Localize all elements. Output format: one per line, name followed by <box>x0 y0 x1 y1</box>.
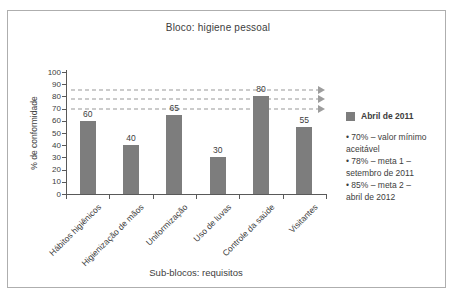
x-axis-title: Sub-blocos: requisitos <box>66 267 326 278</box>
legend-series-label: Abril de 2011 <box>361 111 413 121</box>
y-tick-label: 0 <box>35 190 61 199</box>
legend-note: • 70% – valor mínimo aceitável <box>346 132 428 155</box>
y-tick-mark <box>62 121 66 122</box>
legend-swatch <box>346 112 355 121</box>
bar-2 <box>123 145 139 194</box>
reference-line <box>71 89 318 91</box>
y-tick-label: 10 <box>35 177 61 186</box>
x-tick-mark <box>109 195 110 199</box>
x-tick-mark <box>153 195 154 199</box>
legend-series-row: Abril de 2011 <box>346 111 441 121</box>
reference-line <box>71 98 318 100</box>
y-tick-mark <box>62 109 66 110</box>
y-tick-mark <box>62 157 66 158</box>
x-category-label: Uniformização <box>144 202 189 247</box>
x-tick-mark <box>196 195 197 199</box>
reference-line-arrow-icon <box>318 95 325 103</box>
y-axis-line <box>66 70 67 195</box>
reference-line-arrow-icon <box>318 86 325 94</box>
x-tick-mark <box>283 195 284 199</box>
x-tick-mark <box>66 195 67 199</box>
y-tick-mark <box>62 170 66 171</box>
legend-note: • 85% – meta 2 – abril de 2012 <box>346 180 428 203</box>
y-tick-mark <box>62 145 66 146</box>
bar-5 <box>253 96 269 194</box>
bar-value-label: 80 <box>244 84 278 94</box>
x-category-label: Visitantes <box>286 202 319 235</box>
y-axis-title: % de conformidade <box>29 96 39 169</box>
bar-3 <box>166 115 182 194</box>
bar-value-label: 40 <box>114 133 148 143</box>
x-tick-mark <box>239 195 240 199</box>
y-tick-label: 90 <box>35 80 61 89</box>
y-tick-mark <box>62 96 66 97</box>
chart-legend: Abril de 2011 • 70% – valor mínimo aceit… <box>346 111 441 204</box>
y-tick-label: 100 <box>35 68 61 77</box>
y-tick-mark <box>62 133 66 134</box>
bar-6 <box>296 127 312 194</box>
bar-value-label: 55 <box>287 115 321 125</box>
bar-1 <box>80 121 96 194</box>
y-tick-mark <box>62 84 66 85</box>
bar-4 <box>210 157 226 194</box>
bar-value-label: 30 <box>201 145 235 155</box>
y-tick-mark <box>62 182 66 183</box>
reference-line <box>71 108 318 110</box>
x-category-label: Uso de luvas <box>191 202 233 244</box>
legend-note: • 78% – meta 1 – setembro de 2011 <box>346 156 428 179</box>
y-tick-mark <box>62 72 66 73</box>
bar-value-label: 60 <box>71 109 105 119</box>
chart-window: Bloco: higiene pessoal 01020304050607080… <box>7 10 446 288</box>
reference-line-arrow-icon <box>318 105 325 113</box>
legend-notes: • 70% – valor mínimo aceitável• 78% – me… <box>346 132 428 203</box>
bar-value-label: 65 <box>157 103 191 113</box>
x-tick-mark <box>326 195 327 199</box>
